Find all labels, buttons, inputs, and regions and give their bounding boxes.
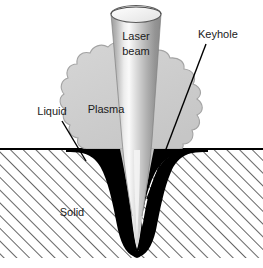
laser-beam-label-line1: Laser xyxy=(122,30,150,42)
solid-label: Solid xyxy=(60,206,84,218)
laser-beam-label-line2: beam xyxy=(122,45,150,57)
liquid-label: Liquid xyxy=(37,105,66,117)
keyhole-label: Keyhole xyxy=(198,28,238,40)
diagram-canvas: Laser beam Keyhole Plasma Liquid Solid xyxy=(0,0,263,268)
plasma-label: Plasma xyxy=(88,103,126,115)
beam-top-aperture xyxy=(111,6,161,23)
laser-keyhole-welding-diagram: Laser beam Keyhole Plasma Liquid Solid xyxy=(0,0,263,268)
